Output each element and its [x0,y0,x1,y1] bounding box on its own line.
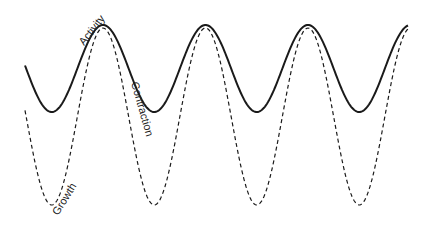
activity-label: Activity [76,12,107,47]
contraction-label: Contraction [129,80,156,137]
wave-diagram: Activity Contraction Growth [0,0,426,230]
growth-label: Growth [50,181,79,217]
